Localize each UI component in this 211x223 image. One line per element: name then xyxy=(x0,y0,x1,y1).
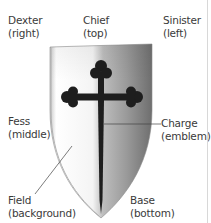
label-dexter: Dexter (right) xyxy=(8,14,42,40)
dexter-term: Dexter xyxy=(8,14,42,27)
shield-diagram: Dexter (right) Chief (top) Sinister (lef… xyxy=(0,0,211,223)
label-field: Field (background) xyxy=(8,194,76,220)
label-fess: Fess (middle) xyxy=(8,115,50,141)
charge-meaning: (emblem) xyxy=(161,130,211,143)
fess-meaning: (middle) xyxy=(8,128,50,141)
dexter-meaning: (right) xyxy=(8,27,42,40)
chief-term: Chief xyxy=(83,14,109,27)
right-border-divider xyxy=(207,0,208,223)
field-term: Field xyxy=(8,194,76,207)
field-meaning: (background) xyxy=(8,207,76,220)
base-meaning: (bottom) xyxy=(130,207,175,220)
label-chief: Chief (top) xyxy=(83,14,109,40)
fess-term: Fess xyxy=(8,115,50,128)
label-base: Base (bottom) xyxy=(130,194,175,220)
charge-term: Charge xyxy=(161,117,211,130)
base-term: Base xyxy=(130,194,175,207)
sinister-term: Sinister xyxy=(163,14,201,27)
chief-meaning: (top) xyxy=(83,27,109,40)
label-charge: Charge (emblem) xyxy=(161,117,211,143)
sinister-meaning: (left) xyxy=(163,27,201,40)
label-sinister: Sinister (left) xyxy=(163,14,201,40)
